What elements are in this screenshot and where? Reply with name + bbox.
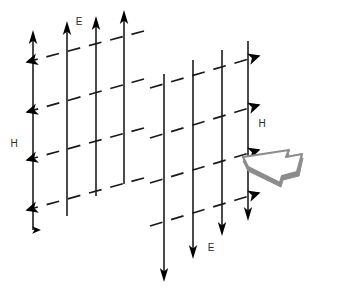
left-h-vector-3 (27, 128, 144, 160)
left-e-label: E (76, 16, 83, 27)
left-e-vectors (29, 10, 128, 230)
right-h-vector-4 (150, 193, 259, 226)
propagation-block-arrow (243, 150, 303, 187)
block-arrow-face (243, 150, 302, 183)
right-h-vector-2 (150, 105, 259, 138)
left-field-cluster: E H (10, 10, 144, 230)
right-h-vector-3 (150, 150, 259, 183)
left-h-vectors (27, 31, 144, 210)
em-wave-diagram: E H E H (0, 0, 344, 291)
figure-root: E H E H (0, 0, 344, 291)
right-e-label: E (208, 242, 215, 253)
right-h-label: H (258, 118, 265, 129)
left-h-vector-4 (27, 178, 144, 210)
right-e-vectors (160, 41, 252, 282)
left-h-vector-1 (27, 31, 144, 62)
left-h-label: H (10, 138, 17, 149)
right-h-vectors (150, 56, 259, 226)
right-h-vector-1 (150, 56, 259, 88)
left-h-vector-2 (27, 79, 144, 112)
